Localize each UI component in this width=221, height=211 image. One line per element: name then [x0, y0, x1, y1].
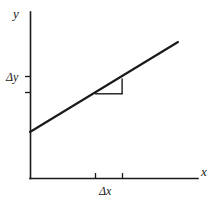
- figure-container: y x Δy Δx: [0, 0, 221, 211]
- slope-diagram: [0, 0, 221, 211]
- x-axis-label: x: [201, 165, 207, 178]
- y-axis-label: y: [13, 7, 19, 20]
- data-line: [30, 42, 178, 132]
- delta-x-label: Δx: [99, 185, 111, 197]
- delta-y-label: Δy: [6, 71, 18, 83]
